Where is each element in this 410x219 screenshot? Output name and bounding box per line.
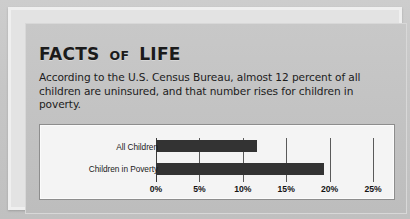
callout-heading: FACTS OF LIFE: [39, 33, 394, 65]
category-label-all-children: All Children: [116, 142, 158, 152]
callout-body-text: According to the U.S. Census Bureau, alm…: [39, 71, 387, 112]
x-tick-label-20: 20%: [321, 184, 338, 194]
paper-margin-ring: FACTS OF LIFE According to the U.S. Cens…: [8, 7, 402, 210]
gridline-25: [373, 138, 374, 182]
x-tick-label-25: 25%: [364, 184, 381, 194]
x-tick-label-15: 15%: [278, 184, 295, 194]
category-label-children-in-poverty: Children in Poverty: [89, 164, 158, 174]
gridline-15: [286, 138, 287, 182]
bar-chart: All ChildrenChildren in Poverty0%5%10%15…: [40, 125, 396, 201]
x-tick-label-0: 0%: [150, 184, 162, 194]
x-tick-label-10: 10%: [234, 184, 251, 194]
bar-all-children: [156, 140, 257, 152]
heading-word-of: OF: [109, 48, 131, 63]
bar-children-in-poverty: [156, 163, 324, 175]
gridline-20: [330, 138, 331, 182]
heading-word-facts: FACTS: [39, 44, 100, 64]
heading-word-life: LIFE: [139, 44, 181, 64]
chart-panel: All ChildrenChildren in Poverty0%5%10%15…: [39, 124, 395, 200]
facts-of-life-callout: FACTS OF LIFE According to the U.S. Cens…: [25, 23, 407, 214]
x-tick-label-5: 5%: [193, 184, 205, 194]
page-background: FACTS OF LIFE According to the U.S. Cens…: [0, 0, 410, 219]
